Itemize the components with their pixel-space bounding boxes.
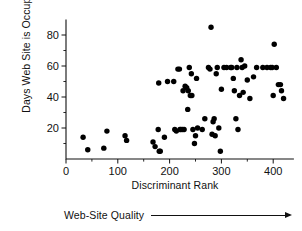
data-point [124, 138, 129, 143]
data-point [192, 141, 197, 146]
quality-annotation: Web-Site Quality [56, 205, 296, 225]
data-point [165, 79, 170, 84]
y-tick-labels: 20406080 [47, 29, 59, 134]
data-point [238, 57, 243, 62]
axis-spines [66, 20, 294, 160]
svg-text:200: 200 [160, 165, 178, 177]
data-point [155, 127, 160, 132]
svg-text:40: 40 [47, 91, 59, 103]
data-point [150, 139, 155, 144]
data-point [186, 88, 191, 93]
data-point [190, 127, 195, 132]
data-point [231, 76, 236, 81]
plot-area: 20406080 0100200300400 [0, 0, 302, 178]
data-point [212, 133, 217, 138]
data-point [270, 93, 275, 98]
data-point [85, 147, 90, 152]
data-point [274, 65, 279, 70]
data-point [251, 74, 256, 79]
data-point [187, 65, 192, 70]
data-point [208, 25, 213, 30]
data-point [162, 135, 167, 140]
data-point [233, 116, 238, 121]
data-point [279, 88, 284, 93]
data-point [171, 79, 176, 84]
data-point [240, 90, 245, 95]
data-point [242, 63, 247, 68]
data-point [193, 133, 198, 138]
x-tick-labels: 0100200300400 [63, 165, 282, 177]
data-point [200, 127, 205, 132]
data-point [158, 149, 163, 154]
svg-text:0: 0 [63, 165, 69, 177]
data-point [219, 87, 224, 92]
data-point [156, 80, 161, 85]
data-point [254, 65, 259, 70]
data-point [272, 42, 277, 47]
data-point [229, 65, 234, 70]
data-point [80, 135, 85, 140]
data-point [104, 128, 109, 133]
data-points [80, 25, 286, 154]
svg-text:300: 300 [212, 165, 230, 177]
data-point [189, 71, 194, 76]
svg-text:100: 100 [109, 165, 127, 177]
data-point [216, 125, 221, 130]
data-point [177, 66, 182, 71]
data-point [215, 65, 220, 70]
quality-annotation-label: Web-Site Quality [56, 209, 144, 221]
data-point [122, 133, 127, 138]
data-point [189, 93, 194, 98]
data-point [278, 82, 283, 87]
scatter-plot-figure: Days Web Site is Occupied Discriminant R… [0, 0, 302, 231]
data-point [235, 127, 240, 132]
data-point [234, 65, 239, 70]
data-point [152, 144, 157, 149]
y-axis-title: Days Web Site is Occupied [20, 0, 32, 128]
data-point [185, 107, 190, 112]
svg-text:60: 60 [47, 60, 59, 72]
svg-text:400: 400 [264, 165, 282, 177]
data-point [211, 116, 216, 121]
axis-ticks [62, 35, 274, 164]
x-axis-title: Discriminant Rank [60, 179, 290, 191]
data-point [214, 71, 219, 76]
data-point [281, 96, 286, 101]
svg-text:80: 80 [47, 29, 59, 41]
data-point [247, 96, 252, 101]
data-point [232, 88, 237, 93]
svg-text:20: 20 [47, 122, 59, 134]
data-point [202, 116, 207, 121]
data-point [207, 66, 212, 71]
data-point [194, 76, 199, 81]
data-point [181, 127, 186, 132]
right-arrow-icon [151, 210, 292, 220]
data-point [245, 77, 250, 82]
data-point [218, 149, 223, 154]
data-point [101, 145, 106, 150]
data-point [195, 125, 200, 130]
